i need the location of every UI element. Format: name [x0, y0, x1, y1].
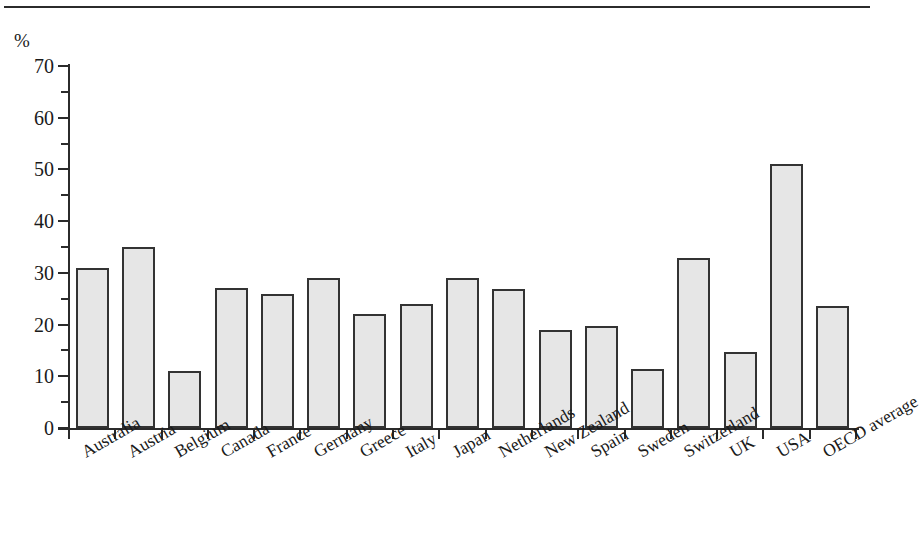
- y-tick-major-0: [58, 427, 69, 429]
- bar[interactable]: [215, 288, 248, 428]
- y-tick-label-40: 40: [8, 211, 54, 231]
- bar[interactable]: [261, 294, 294, 428]
- x-label-japan: Japan: [450, 426, 493, 461]
- y-tick-minor-25: [61, 298, 69, 300]
- bar[interactable]: [770, 164, 803, 428]
- bars-layer: [69, 66, 859, 430]
- bar[interactable]: [631, 369, 664, 428]
- y-tick-major-50: [58, 168, 69, 170]
- y-tick-minor-55: [61, 143, 69, 145]
- y-tick-label-10: 10: [8, 366, 54, 386]
- y-tick-major-60: [58, 117, 69, 119]
- y-tick-label-30: 30: [8, 263, 54, 283]
- bar[interactable]: [400, 304, 433, 428]
- y-tick-major-10: [58, 375, 69, 377]
- bar[interactable]: [76, 268, 109, 428]
- bar[interactable]: [307, 278, 340, 428]
- y-tick-label-20: 20: [8, 315, 54, 335]
- bar[interactable]: [168, 371, 201, 428]
- bar[interactable]: [122, 247, 155, 428]
- bar[interactable]: [816, 306, 849, 428]
- y-tick-major-30: [58, 272, 69, 274]
- y-tick-major-20: [58, 324, 69, 326]
- bar[interactable]: [353, 314, 386, 428]
- y-tick-minor-65: [61, 91, 69, 93]
- x-tick: [438, 430, 440, 439]
- y-tick-minor-5: [61, 401, 69, 403]
- x-label-usa: USA: [774, 428, 813, 461]
- x-tick: [762, 430, 764, 439]
- y-tick-label-50: 50: [8, 159, 54, 179]
- y-tick-minor-45: [61, 194, 69, 196]
- x-tick: [68, 430, 70, 439]
- y-tick-major-40: [58, 220, 69, 222]
- bar[interactable]: [677, 258, 710, 428]
- y-tick-label-60: 60: [8, 108, 54, 128]
- y-tick-minor-35: [61, 246, 69, 248]
- y-tick-label-0: 0: [8, 418, 54, 438]
- y-tick-minor-15: [61, 349, 69, 351]
- bar[interactable]: [492, 289, 525, 428]
- y-tick-label-70: 70: [8, 56, 54, 76]
- x-label-uk: UK: [727, 433, 758, 461]
- y-tick-major-70: [58, 65, 69, 67]
- bar[interactable]: [446, 278, 479, 428]
- y-axis-tick-labels: 010203040506070: [0, 0, 54, 558]
